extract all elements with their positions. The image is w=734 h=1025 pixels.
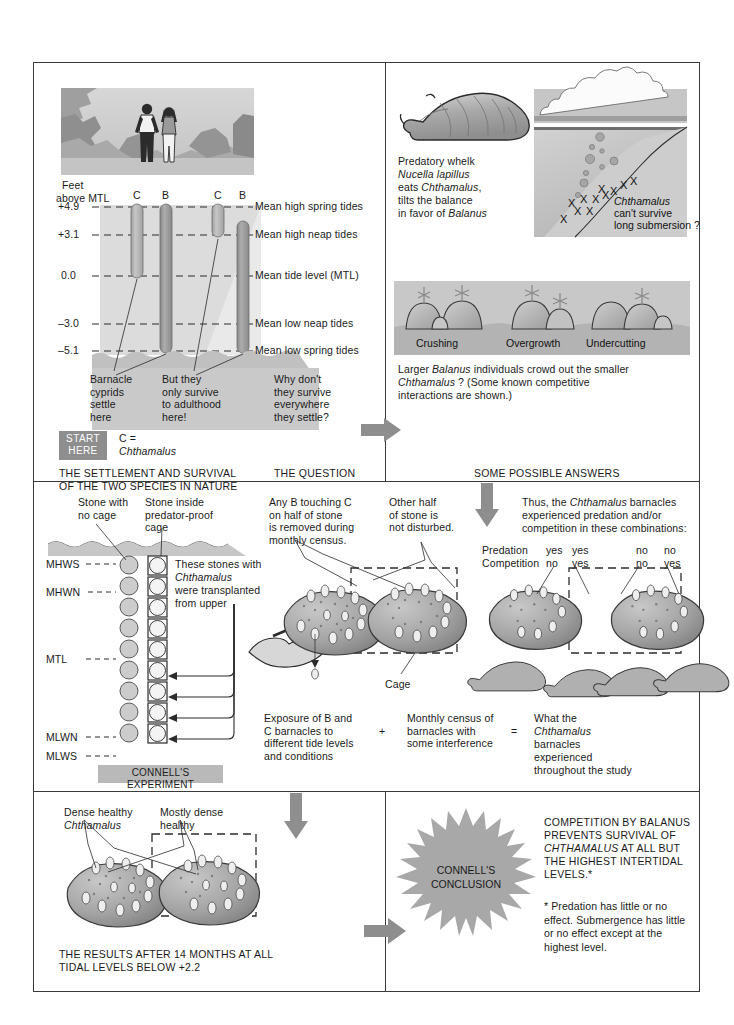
transplant-note-line2: Chthamalus <box>175 571 232 584</box>
tick-label-4: –5.1 <box>58 344 79 357</box>
note-leader-lines <box>249 530 509 600</box>
svg-text:X: X <box>560 213 568 225</box>
crowd-text-line3: interactions are shown.) <box>398 389 512 402</box>
conclusion-footnote: * Predation has little or no effect. Sub… <box>544 900 685 954</box>
equation-term3-line4: experienced <box>534 751 592 764</box>
svg-text:can't survive: can't survive <box>614 207 672 219</box>
tide-mark-mlws: MLWS <box>46 750 77 763</box>
start-here-label: START HERE <box>66 433 100 456</box>
thus-note-line3: competition in these combinations: <box>522 522 687 535</box>
submersion-illustration: XX XX XX XX XX X Chthamalus can't surviv… <box>534 89 687 237</box>
svg-text:X: X <box>620 179 628 191</box>
svg-text:Chthamalus: Chthamalus <box>614 195 671 207</box>
svg-text:CONCLUSION: CONCLUSION <box>431 878 501 890</box>
tide-line-label-1: Mean high neap tides <box>255 228 358 241</box>
tide-mark-mhwn: MHWN <box>46 586 80 599</box>
panel-results: Dense healthy Chthamalus Mostly dense he… <box>34 792 385 991</box>
conclusion-line3: CHTHAMALUS AT ALL BUT <box>544 842 680 855</box>
connells-experiment-badge[interactable]: CONNELL'S EXPERIMENT <box>98 765 223 783</box>
equation-term3-line3: barnacles <box>534 738 580 751</box>
tide-line-label-0: Mean high spring tides <box>255 200 363 213</box>
tide-diagram <box>34 63 385 423</box>
panel-connells-experiment: Stone with no cage Stone inside predator… <box>34 482 699 791</box>
note-settle: Barnacle cyprids settle here <box>90 373 132 423</box>
legend-c-equals: C = <box>119 432 136 445</box>
conclusion-line2: PREVENTS SURVIVAL OF <box>544 829 676 842</box>
crowd-text-line1: Larger Balanus individuals crowd out the… <box>398 363 629 376</box>
conclusion-line4: THE HIGHEST INTERTIDAL <box>544 855 683 868</box>
svg-text:X: X <box>580 193 588 205</box>
svg-text:X: X <box>568 197 576 209</box>
svg-text:X: X <box>598 183 606 195</box>
panel2-caption: SOME POSSIBLE ANSWERS <box>474 467 620 480</box>
svg-text:X: X <box>586 205 594 217</box>
tide-mark-mtl: MTL <box>46 653 67 666</box>
cage-label: Cage <box>385 678 411 691</box>
tide-mark-mlwn: MLWN <box>46 731 78 744</box>
tick-label-1: +3.1 <box>58 228 79 241</box>
note-question: Why don't they survive everywhere they s… <box>274 373 331 423</box>
tide-line-label-2: Mean tide level (MTL) <box>255 269 359 282</box>
panel4-caption: THE RESULTS AFTER 14 MONTHS AT ALL TIDAL… <box>59 948 273 974</box>
tide-line-label-3: Mean low neap tides <box>255 317 353 330</box>
conclusion-species-italic: CHTHAMALUS <box>544 842 618 854</box>
conclusion-line1: COMPETITION BY BALANUS <box>544 816 690 829</box>
whelk-text-line5: in favor of Balanus <box>398 207 487 220</box>
figure-frame: Feet above MTL <box>33 62 700 992</box>
legend-chthamalus: Chthamalus <box>119 445 176 458</box>
tick-label-2: 0.0 <box>61 269 76 282</box>
equation-term-1: Exposure of B and C barnacles to differe… <box>264 712 354 762</box>
panel1-question-caption: THE QUESTION <box>274 467 355 480</box>
transplant-note-line3: were transplanted <box>175 584 260 597</box>
note-undisturbed: Other half of stone is not disturbed. <box>389 496 454 534</box>
start-here-badge[interactable]: START HERE <box>59 431 107 460</box>
connells-experiment-label: CONNELL'S EXPERIMENT <box>127 767 194 790</box>
tick-label-0: +4.9 <box>58 200 79 213</box>
equation-term3-line1: What the <box>534 712 577 725</box>
crowd-text-line2: Chthamalus ? (Some known competitive <box>398 376 590 389</box>
svg-text:CONNELL'S: CONNELL'S <box>437 864 496 876</box>
whelk-text-line4: tilts the balance <box>398 194 473 207</box>
whelk-text-line1: Predatory whelk <box>398 155 475 168</box>
panel-settlement-survival: Feet above MTL <box>34 63 385 481</box>
bar-label-b1: B <box>162 189 169 202</box>
label-dense-line1: Dense healthy <box>64 806 133 819</box>
matrix-pred-3: no <box>636 544 648 557</box>
bar-label-b2: B <box>239 189 246 202</box>
arrow-right-to-answers <box>361 418 401 442</box>
equation-equals: = <box>511 725 517 738</box>
transplant-note-line4: from upper <box>175 597 227 610</box>
matrix-pred-2: yes <box>572 544 589 557</box>
tide-line-label-4: Mean low spring tides <box>255 344 359 357</box>
note-survive: But they only survive to adulthood here! <box>162 373 221 423</box>
tick-label-3: –3.0 <box>58 317 79 330</box>
matrix-pred-4: no <box>664 544 676 557</box>
svg-text:Overgrowth: Overgrowth <box>506 337 560 349</box>
svg-text:long submersion ?: long submersion ? <box>614 219 700 231</box>
panel-conclusion: CONNELL'S CONCLUSION COMPETITION BY BALA… <box>386 792 699 991</box>
panel-possible-answers: Predatory whelk Nucella lapillus eats Ch… <box>386 63 699 481</box>
equation-term3-line5: throughout the study <box>534 764 632 777</box>
bar-label-c2: C <box>214 189 222 202</box>
equation-plus: + <box>379 725 385 738</box>
whelk-text-line3: eats Chthamalus, <box>398 181 481 194</box>
thus-note-line2: experienced predation and/or <box>522 509 662 522</box>
conclusion-line5: LEVELS.* <box>544 868 592 881</box>
matrix-pred-1: yes <box>546 544 563 557</box>
svg-text:X: X <box>630 175 638 187</box>
svg-text:Crushing: Crushing <box>416 337 458 349</box>
whelk-illustration <box>396 87 531 149</box>
equation-term-2: Monthly census of barnacles with some in… <box>407 712 493 750</box>
conclusion-starburst: CONNELL'S CONCLUSION <box>396 808 536 954</box>
thus-note-line1: Thus, the Chthamalus barnacles <box>522 496 676 509</box>
equation-term3-line2: Chthamalus <box>534 725 591 738</box>
tide-mark-mhws: MHWS <box>46 558 80 571</box>
conclusion-line3-rest: AT ALL BUT <box>618 842 680 854</box>
competition-illustration: Crushing Overgrowth Undercutting <box>394 281 690 355</box>
svg-text:Undercutting: Undercutting <box>586 337 646 349</box>
results-stones <box>48 828 288 938</box>
bar-label-c1: C <box>133 189 141 202</box>
whelk-text-line2: Nucella lapillus <box>398 168 470 181</box>
